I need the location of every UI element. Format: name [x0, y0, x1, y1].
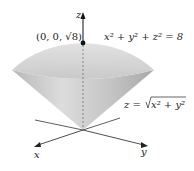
y-axis — [83, 130, 144, 145]
x-axis-arrow-icon — [34, 142, 41, 147]
ice-cream-cone-diagram: z x y (0, 0, √8) x² + y² + z² = 8 z = x²… — [0, 0, 194, 171]
z-axis-label: z — [75, 9, 82, 20]
x-axis-label: x — [34, 149, 40, 160]
x-axis — [38, 130, 83, 145]
cone-equation-lhs: z = — [123, 99, 141, 110]
sphere-equation: x² + y² + z² = 8 — [104, 31, 183, 42]
y-axis-label: y — [140, 146, 147, 157]
cone-equation-radicand: x² + y² — [151, 99, 185, 110]
point-label: (0, 0, √8) — [36, 31, 82, 42]
